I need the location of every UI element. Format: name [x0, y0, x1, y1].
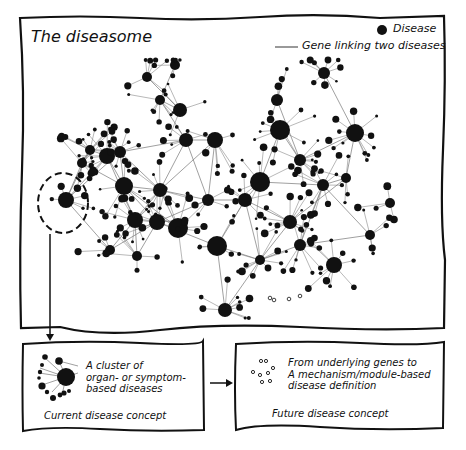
right-box-description: From underlying genes to A mechanism/mod… — [288, 357, 431, 392]
right-desc-line-3: disease definition — [288, 380, 431, 392]
cluster-icon — [37, 354, 78, 401]
legend-gene-label: Gene linking two diseases — [302, 40, 446, 53]
down-arrow-head — [46, 334, 54, 341]
diagram-title: The diseasome — [31, 28, 152, 46]
left-desc-line-3: based diseases — [86, 383, 186, 395]
right-box-caption: Future disease concept — [272, 408, 388, 420]
left-box-caption: Current disease concept — [44, 410, 166, 422]
left-desc-line-2: organ- or symptom- — [86, 372, 186, 384]
legend-disease-icon — [377, 25, 387, 35]
legend-disease-label: Disease — [393, 23, 436, 36]
right-desc-line-2: A mechanism/module-based — [288, 369, 431, 381]
right-desc-line-1: From underlying genes to — [288, 357, 431, 369]
right-arrow-head — [226, 379, 233, 387]
diseasome-network — [50, 57, 398, 321]
gene-modules-icon — [251, 359, 274, 383]
left-desc-line-1: A cluster of — [86, 360, 186, 372]
left-box-description: A cluster of organ- or symptom- based di… — [86, 360, 186, 395]
